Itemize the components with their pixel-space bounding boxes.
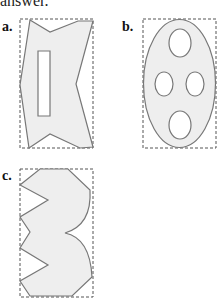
figure-c [20, 169, 93, 297]
figure-a [20, 19, 93, 148]
figures-canvas [0, 0, 221, 298]
figure-b [143, 19, 216, 148]
figure-b-hole-left [155, 72, 173, 96]
figure-b-hole-right [186, 72, 204, 96]
figure-b-hole-top [169, 29, 191, 57]
figure-b-hole-bottom [169, 111, 191, 139]
figure-a-shape [20, 20, 93, 148]
figure-c-shape [20, 169, 92, 296]
